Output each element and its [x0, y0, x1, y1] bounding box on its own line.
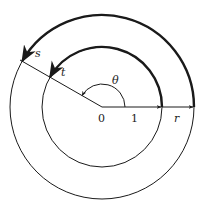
outer-point-label: s	[35, 47, 41, 60]
inner-point-label: t	[61, 66, 66, 79]
polar-circles-diagram: 0 1 r θ t s	[0, 0, 205, 211]
inner-thick-arc	[50, 47, 162, 107]
outer-thick-arc	[22, 15, 194, 107]
radius-label: r	[174, 112, 180, 125]
theta-label: θ	[112, 74, 119, 87]
origin-label: 0	[98, 112, 105, 125]
theta-arc	[82, 84, 125, 107]
unit-label: 1	[131, 112, 138, 125]
